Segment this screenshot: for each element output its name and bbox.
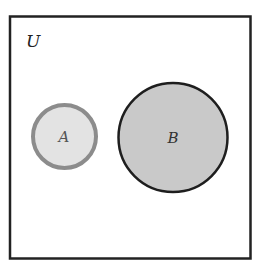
set-a-label: A: [57, 128, 70, 146]
venn-diagram: U A B: [0, 0, 268, 269]
universe-label: U: [26, 31, 41, 51]
set-b-label: B: [166, 129, 178, 147]
